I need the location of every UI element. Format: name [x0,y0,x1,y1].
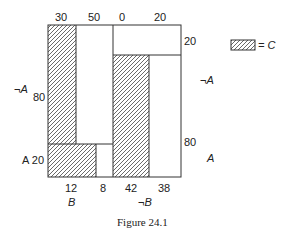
legend-label: = C [258,39,275,51]
right-label-bottom: 80 [184,136,196,148]
top-label-1: 30 [55,11,67,23]
bottom-group-b: B [68,196,75,208]
legend-hatch-swatch [231,40,255,50]
right-group-not-a: ¬A [200,74,214,86]
left-group-not-a: ¬A [14,83,28,95]
bottom-label-3: 42 [125,182,137,194]
right-group-a: A [207,152,214,164]
hatched-region-b-not-a [48,25,76,144]
top-label-3: 0 [119,11,125,23]
bottom-group-not-b: ¬B [138,196,152,208]
left-label-a-20: A 20 [22,154,44,166]
left-label-80: 80 [33,91,45,103]
hatched-region-notb-a [113,55,149,177]
bottom-label-1: 12 [65,182,77,194]
right-label-top: 20 [184,35,196,47]
bottom-label-4: 38 [158,182,170,194]
hatched-region-b-a [48,144,96,177]
top-label-4: 20 [154,11,166,23]
figure-caption: Figure 24.1 [117,216,168,228]
top-label-2: 50 [88,11,100,23]
bottom-label-2: 8 [100,182,106,194]
